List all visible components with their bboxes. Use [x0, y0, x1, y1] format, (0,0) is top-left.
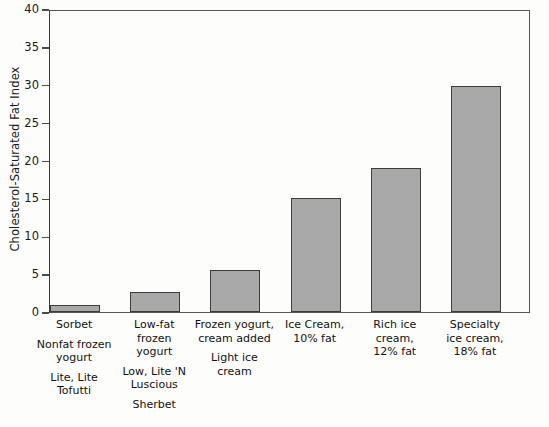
bar	[130, 292, 180, 312]
category-label-line-group: Specialtyice cream,18% fat	[420, 318, 530, 359]
y-tick-label: 40	[24, 2, 39, 16]
y-tick-mark	[42, 85, 49, 86]
y-tick-label: 25	[24, 116, 39, 130]
y-tick-mark	[42, 47, 49, 48]
category-label-line-group: Sherbet	[99, 398, 209, 412]
y-tick-label: 35	[24, 40, 39, 54]
y-tick-mark	[42, 237, 49, 238]
category-label-line: cream	[179, 365, 289, 379]
category-label-line: Luscious	[99, 378, 209, 392]
y-tick-label: 30	[24, 78, 39, 92]
category-label-line-group: Light icecream	[179, 351, 289, 378]
bar	[210, 270, 260, 312]
plot-area	[49, 10, 530, 313]
y-tick-label: 0	[32, 305, 39, 319]
y-tick-mark	[42, 312, 49, 313]
y-tick-mark	[42, 161, 49, 162]
bar	[371, 168, 421, 312]
y-tick-mark	[42, 9, 49, 10]
y-tick-mark	[42, 199, 49, 200]
bar	[451, 86, 501, 312]
y-tick-label: 5	[32, 267, 39, 281]
category-label-6: Specialtyice cream,18% fat	[420, 318, 530, 359]
y-tick-label: 15	[24, 191, 39, 205]
category-label-line: Specialty	[420, 318, 530, 332]
category-label-line: Sherbet	[99, 398, 209, 412]
bar-chart-figure: Cholesterol-Saturated Fat Index 05101520…	[0, 0, 549, 427]
y-tick-label: 10	[24, 229, 39, 243]
bar	[291, 198, 341, 312]
y-tick-label: 20	[24, 154, 39, 168]
y-tick-mark	[42, 274, 49, 275]
category-label-line: Light ice	[179, 351, 289, 365]
y-axis-title-container: Cholesterol-Saturated Fat Index	[0, 0, 22, 320]
bar	[50, 305, 100, 312]
y-tick-mark	[42, 123, 49, 124]
y-axis-title: Cholesterol-Saturated Fat Index	[8, 34, 22, 284]
category-label-line: ice cream,	[420, 332, 530, 346]
category-label-line: 18% fat	[420, 345, 530, 359]
